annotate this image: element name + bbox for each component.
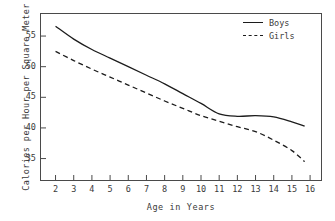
y-axis-title: Calories per Hour per Square Meter — [21, 0, 31, 197]
x-axis-tick-labels: 2345678910111213141516 — [0, 184, 335, 198]
x-tick-label-15: 15 — [284, 184, 300, 194]
legend-line-solid-icon — [243, 19, 263, 27]
legend-item-girls: Girls — [243, 29, 295, 42]
x-axis-title: Age in Years — [40, 202, 322, 212]
x-tick-label-11: 11 — [211, 184, 227, 194]
x-tick-label-12: 12 — [229, 184, 245, 194]
x-tick-label-13: 13 — [248, 184, 264, 194]
x-tick-label-10: 10 — [193, 184, 209, 194]
legend-label-boys: Boys — [269, 18, 289, 28]
line-chart: 3540455055 2345678910111213141516 Calori… — [0, 0, 335, 221]
x-tick-label-5: 5 — [102, 184, 118, 194]
data-series-group — [56, 26, 305, 161]
x-axis-ticks — [56, 175, 311, 180]
x-tick-label-16: 16 — [302, 184, 318, 194]
legend-line-dashed-icon — [243, 32, 263, 40]
y-axis-ticks — [41, 36, 46, 159]
legend-label-girls: Girls — [269, 31, 295, 41]
x-tick-label-8: 8 — [157, 184, 173, 194]
x-tick-label-6: 6 — [120, 184, 136, 194]
x-tick-label-3: 3 — [66, 184, 82, 194]
legend-item-boys: Boys — [243, 16, 295, 29]
x-tick-label-7: 7 — [138, 184, 154, 194]
chart-legend: Boys Girls — [243, 16, 295, 42]
x-tick-label-2: 2 — [48, 184, 64, 194]
series-line-girls — [56, 51, 305, 161]
x-tick-label-4: 4 — [84, 184, 100, 194]
x-tick-label-14: 14 — [266, 184, 282, 194]
x-tick-label-9: 9 — [175, 184, 191, 194]
